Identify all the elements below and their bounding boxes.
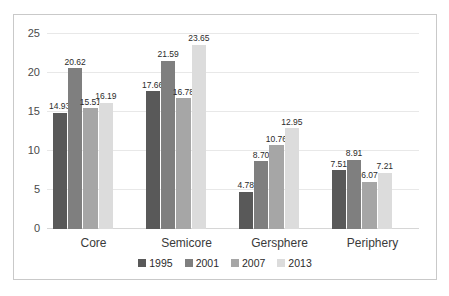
bar-slot: 16.78: [176, 34, 190, 229]
legend-item[interactable]: 1995: [138, 258, 172, 269]
bar-slot: 15.51: [83, 34, 97, 229]
legend-item[interactable]: 2001: [185, 258, 219, 269]
bar[interactable]: [378, 173, 392, 229]
bar-slot: 8.91: [347, 34, 361, 229]
bar[interactable]: [239, 192, 253, 229]
bar-slot: 20.62: [68, 34, 82, 229]
bar-group-bars: 7.518.916.077.21: [332, 34, 414, 229]
x-tick-label: Periphery: [326, 233, 419, 255]
y-tick-label: 0: [34, 222, 40, 234]
bar-value-label: 6.07: [361, 171, 378, 180]
y-tick-label: 5: [34, 183, 40, 195]
bar-value-label: 12.95: [281, 118, 302, 127]
bar[interactable]: [347, 160, 361, 229]
bar-value-label: 4.78: [237, 181, 254, 190]
legend-label: 2007: [242, 258, 265, 269]
bar[interactable]: [285, 128, 299, 229]
bar[interactable]: [362, 182, 376, 229]
x-tick-label: Gersphere: [233, 233, 326, 255]
y-tick-label: 10: [28, 144, 40, 156]
bar-slot: 21.59: [161, 34, 175, 229]
bar-value-label: 7.51: [330, 160, 347, 169]
legend-swatch-icon: [185, 259, 193, 267]
x-tick-label: Semicore: [140, 233, 233, 255]
bar-group-bars: 17.6621.5916.7823.65: [146, 34, 228, 229]
bar[interactable]: [146, 91, 160, 229]
legend-swatch-icon: [277, 259, 285, 267]
bar[interactable]: [176, 98, 190, 229]
bar-value-label: 8.91: [346, 149, 363, 158]
legend-label: 2001: [196, 258, 219, 269]
bar-slot: 17.66: [146, 34, 160, 229]
x-axis: CoreSemicoreGerspherePeriphery: [47, 233, 419, 255]
bar-slot: 4.78: [239, 34, 253, 229]
bar-group: 7.518.916.077.21: [326, 34, 419, 229]
legend-swatch-icon: [138, 259, 146, 267]
legend-swatch-icon: [231, 259, 239, 267]
chart-legend: 1995200120072013: [14, 258, 436, 269]
bar-slot: 12.95: [285, 34, 299, 229]
bar[interactable]: [53, 113, 67, 229]
bar[interactable]: [83, 108, 97, 229]
bar-slot: 10.76: [269, 34, 283, 229]
legend-label: 1995: [149, 258, 172, 269]
chart-frame: 0510152025 14.9320.6215.5116.1917.6621.5…: [13, 14, 437, 280]
y-tick-label: 20: [28, 66, 40, 78]
bar-value-label: 7.21: [377, 162, 394, 171]
bar-value-label: 8.70: [253, 151, 270, 160]
bar[interactable]: [269, 145, 283, 229]
legend-item[interactable]: 2013: [277, 258, 311, 269]
bar-slot: 7.51: [332, 34, 346, 229]
bar-group: 4.788.7010.7612.95: [233, 34, 326, 229]
y-tick-label: 15: [28, 105, 40, 117]
bar[interactable]: [192, 45, 206, 229]
x-tick-label: Core: [47, 233, 140, 255]
bar-groups: 14.9320.6215.5116.1917.6621.5916.7823.65…: [47, 34, 419, 229]
legend-label: 2013: [288, 258, 311, 269]
bar-slot: 16.19: [99, 34, 113, 229]
bar-group-bars: 4.788.7010.7612.95: [239, 34, 321, 229]
bar-group-bars: 14.9320.6215.5116.19: [53, 34, 135, 229]
bar-slot: 7.21: [378, 34, 392, 229]
bar[interactable]: [332, 170, 346, 229]
plot-area: 0510152025 14.9320.6215.5116.1917.6621.5…: [47, 34, 419, 229]
legend-item[interactable]: 2007: [231, 258, 265, 269]
bar[interactable]: [254, 161, 268, 229]
y-tick-label: 25: [28, 27, 40, 39]
bar-slot: 23.65: [192, 34, 206, 229]
bar-value-label: 16.19: [95, 92, 116, 101]
bar-slot: 8.70: [254, 34, 268, 229]
bar[interactable]: [99, 103, 113, 229]
bar-group: 14.9320.6215.5116.19: [47, 34, 140, 229]
bar-slot: 6.07: [362, 34, 376, 229]
bar-value-label: 23.65: [188, 34, 209, 43]
bar-group: 17.6621.5916.7823.65: [140, 34, 233, 229]
bar[interactable]: [68, 68, 82, 229]
